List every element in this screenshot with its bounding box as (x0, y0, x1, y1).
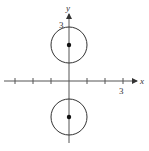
coordinate-plane: x y 3 3 (0, 0, 149, 151)
y-tick-label-3: 3 (59, 20, 64, 30)
x-axis-label: x (139, 76, 144, 86)
center-point (67, 115, 71, 119)
graph-figure: x y 3 3 (0, 0, 149, 151)
center-point (67, 43, 71, 47)
y-axis-label: y (65, 3, 70, 13)
x-tick-label-3: 3 (119, 86, 124, 96)
